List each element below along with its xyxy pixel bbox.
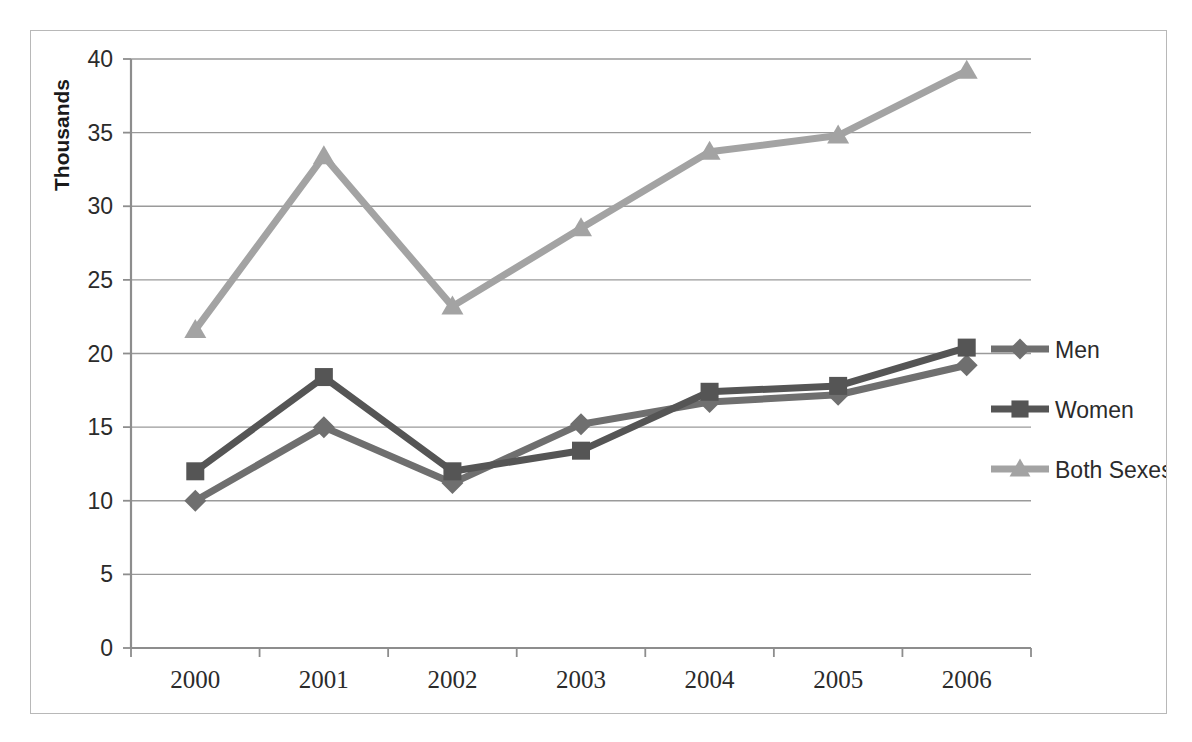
y-axis-title: Thousands xyxy=(50,79,73,191)
y-tick-marks-group xyxy=(123,59,131,648)
data-point-marker-square xyxy=(829,377,847,395)
legend-item-men[interactable]: Men xyxy=(991,337,1100,363)
data-point-marker-square xyxy=(186,462,204,480)
legend-item-women[interactable]: Women xyxy=(991,397,1134,423)
x-tick-labels-group: 2000200120022003200420052006 xyxy=(170,666,991,693)
data-point-marker-diamond xyxy=(570,413,592,435)
x-tick-label: 2003 xyxy=(556,666,606,693)
x-tick-label: 2002 xyxy=(427,666,477,693)
y-tick-label: 25 xyxy=(87,267,113,293)
y-tick-label: 15 xyxy=(87,414,113,440)
y-tick-label: 20 xyxy=(87,341,113,367)
chart-container: 0510152025303540 20002001200220032004200… xyxy=(30,30,1167,714)
data-point-marker-square xyxy=(572,442,590,460)
legend-label: Women xyxy=(1055,397,1134,423)
series-women xyxy=(186,339,975,481)
legend: MenWomenBoth Sexes xyxy=(991,337,1166,483)
x-tick-label: 2001 xyxy=(299,666,349,693)
x-tick-label: 2005 xyxy=(813,666,863,693)
data-point-marker-triangle xyxy=(313,145,335,164)
series-group xyxy=(184,60,977,512)
line-chart: 0510152025303540 20002001200220032004200… xyxy=(31,31,1166,713)
x-tick-label: 2004 xyxy=(685,666,736,693)
y-tick-labels-group: 0510152025303540 xyxy=(87,46,113,661)
x-tick-label: 2000 xyxy=(170,666,220,693)
series-line xyxy=(195,71,966,330)
y-tick-label: 40 xyxy=(87,46,113,72)
y-tick-label: 10 xyxy=(87,488,113,514)
data-point-marker-square xyxy=(1011,400,1028,417)
data-point-marker-square xyxy=(701,383,719,401)
gridlines-group xyxy=(131,59,1031,648)
x-tick-marks-group xyxy=(131,648,1031,657)
legend-label: Men xyxy=(1055,337,1100,363)
data-point-marker-diamond xyxy=(956,354,978,376)
y-tick-label: 5 xyxy=(100,561,113,587)
data-point-marker-square xyxy=(958,339,976,357)
legend-label: Both Sexes xyxy=(1055,457,1166,483)
series-both-sexes xyxy=(184,60,977,338)
x-tick-label: 2006 xyxy=(942,666,992,693)
y-tick-label: 0 xyxy=(100,635,113,661)
data-point-marker-square xyxy=(443,462,461,480)
y-tick-label: 30 xyxy=(87,193,113,219)
data-point-marker-triangle xyxy=(956,60,978,79)
data-point-marker-square xyxy=(315,368,333,386)
y-tick-label: 35 xyxy=(87,120,113,146)
data-point-marker-diamond xyxy=(1010,339,1031,360)
legend-item-both-sexes[interactable]: Both Sexes xyxy=(991,457,1166,483)
